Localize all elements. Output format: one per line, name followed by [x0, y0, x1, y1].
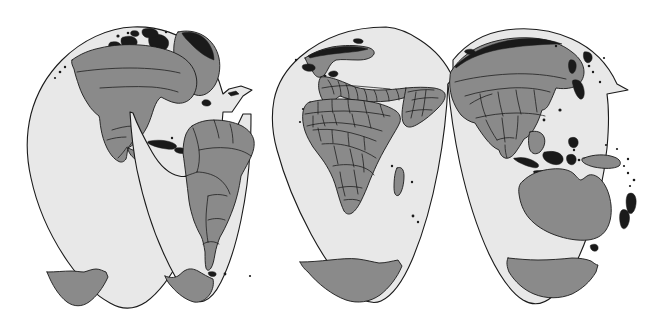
islet-maluku-1 [578, 159, 581, 162]
islet-kuril-1 [588, 65, 591, 68]
island-sakhalin [569, 60, 577, 74]
islet-canary [302, 108, 304, 110]
islet-pacific-2 [599, 81, 601, 83]
islet-pacific-8 [629, 185, 631, 187]
islet-arctic-east-2 [555, 45, 557, 47]
islet-taiwan [558, 108, 561, 111]
islet-falklands [224, 273, 227, 276]
islet-maluku-2 [573, 149, 575, 151]
island-philippines [569, 137, 579, 147]
islet-pacific-6 [605, 144, 607, 146]
islet-pacific-4 [623, 165, 625, 167]
islet-pacific-3 [627, 158, 629, 160]
island-sulawesi [567, 154, 577, 164]
islet-kuril-2 [592, 71, 594, 73]
islet-aleutian-2 [54, 77, 56, 79]
islet-arctic-east-1 [539, 41, 542, 44]
world-map-figure [0, 0, 649, 326]
islet-south-indian-2 [417, 221, 419, 223]
islet-solomon-1 [627, 172, 629, 174]
islet-hainan [543, 119, 546, 122]
islet-mauritius [411, 181, 413, 183]
island-newfoundland [202, 100, 211, 106]
islet-comoros [391, 165, 393, 167]
islet-south-atlantic [249, 275, 251, 277]
world-map-canvas [0, 0, 649, 326]
islet-aleutian-3 [64, 66, 66, 68]
island-british-isles [329, 71, 339, 77]
islet-arctic-4 [165, 31, 167, 33]
islet-pacific-7 [633, 179, 636, 182]
islet-bahamas [171, 137, 173, 139]
islet-arctic-1 [116, 34, 119, 37]
island-arctic-small-a [131, 31, 139, 37]
islet-south-indian-1 [412, 215, 415, 218]
islet-cape-verde [299, 121, 301, 123]
islet-arctic-2 [127, 32, 130, 35]
islet-aleutian-1 [59, 71, 62, 74]
islet-pacific-5 [616, 148, 618, 150]
islet-pacific-1 [603, 57, 605, 59]
islet-north-atlantic [295, 59, 297, 61]
